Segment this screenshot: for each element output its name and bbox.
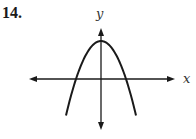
parabola-graph: x y [0,0,196,139]
y-axis-down-arrow [98,122,104,130]
y-axis-label: y [95,6,104,21]
axes [29,28,175,130]
y-axis-up-arrow [98,28,104,36]
x-axis-label: x [183,71,191,86]
x-axis-right-arrow [167,76,175,82]
x-axis-left-arrow [29,76,37,82]
